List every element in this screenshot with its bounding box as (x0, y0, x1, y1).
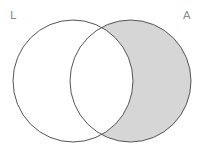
venn-svg (0, 0, 201, 148)
label-a: A (183, 10, 191, 21)
venn-diagram: L A (0, 0, 201, 148)
circle-l (13, 20, 133, 142)
shaded-region (70, 20, 191, 142)
label-l: L (10, 10, 16, 21)
